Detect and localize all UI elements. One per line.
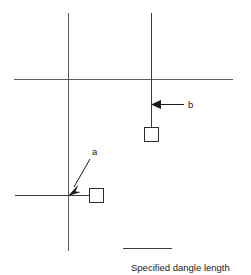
grid-line-group [14,13,233,251]
legend-caption: Specified dangle length [131,262,230,273]
diagram-canvas: a b Specified dangle length [0,0,251,275]
dangle-b-group [145,13,159,142]
annotation-label-b: b [188,99,193,110]
legend-group: Specified dangle length [123,249,230,274]
annotation-label-a: a [92,146,98,157]
dangle-length-diagram: a b Specified dangle length [0,0,251,275]
leader-line-a [74,159,90,187]
endpoint-square-b [145,128,159,142]
arrow-head-b [151,100,161,109]
endpoint-square-a [90,189,104,203]
annotation-b-group: b [151,99,193,110]
dangle-a-group [15,189,104,203]
